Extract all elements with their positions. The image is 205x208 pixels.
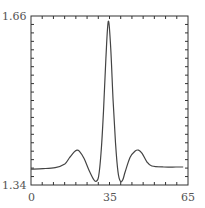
x-tick-label-mid: 35	[103, 191, 117, 204]
plot-frame	[31, 16, 188, 185]
line-chart: 1.66 1.34 0 35 65	[0, 0, 205, 208]
data-line	[31, 21, 183, 182]
axis-ticks	[31, 16, 188, 185]
y-tick-label-bottom: 1.34	[2, 179, 27, 192]
y-tick-label-top: 1.66	[2, 10, 27, 23]
x-tick-label-right: 65	[181, 191, 195, 204]
x-tick-label-left: 0	[28, 191, 35, 204]
